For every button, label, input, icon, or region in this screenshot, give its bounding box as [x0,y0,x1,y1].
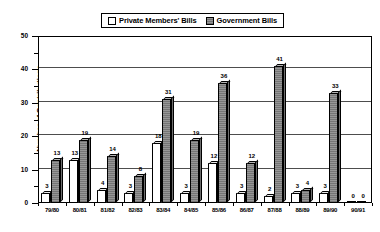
bar-private-members-bills: 2 [264,196,273,203]
bar-government-bills: 4 [301,190,310,203]
bar-face [107,156,116,203]
x-axis-tick [316,203,317,206]
y-axis-tick-label: 50 [2,33,28,40]
bar-face [41,193,50,203]
legend-entry-private-members-bills: Private Members' Bills [108,17,197,25]
y-axis-tick-label: 30 [2,100,28,107]
x-axis-tick [66,203,67,206]
bar-group: 34 [289,36,317,203]
bar-value-label: 19 [186,130,206,136]
bar-face [246,163,255,203]
bar-government-bills: 13 [51,160,60,203]
y-axis-tick-label: 10 [2,167,28,174]
x-axis-tick [261,203,262,206]
bar-face [236,193,245,203]
bar-government-bills: 8 [134,176,143,203]
bar-private-members-bills: 3 [236,193,245,203]
bar-groups: 313131941438183131912363122413433300 [38,36,372,203]
bar-group: 414 [94,36,122,203]
bar-government-bills: 12 [246,163,255,203]
x-axis-labels: 79/8080/8181/8282/8383/8484/8585/8686/87… [38,207,372,219]
bar-group: 313 [38,36,66,203]
bar-side-face [338,89,341,202]
legend-label-private-members-bills: Private Members' Bills [119,17,197,25]
bar-private-members-bills: 3 [124,193,133,203]
bar-group: 319 [177,36,205,203]
bar-government-bills: 14 [107,156,116,203]
bar-group: 1236 [205,36,233,203]
bar-side-face [310,186,313,202]
bar-private-members-bills: 3 [41,193,50,203]
bar-side-face [88,136,91,202]
bar-private-members-bills: 4 [97,190,106,203]
bar-side-face [255,159,258,202]
x-axis-tick [149,203,150,206]
bar-government-bills: 19 [190,140,199,203]
bar-private-members-bills: 3 [180,193,189,203]
bar-face [274,66,283,203]
bar-face [319,193,328,203]
bar-face [208,163,217,203]
bar-value-label: 41 [270,56,290,62]
bar-private-members-bills: 3 [291,193,300,203]
bar-value-label: 31 [158,89,178,95]
bar-private-members-bills: 12 [208,163,217,203]
legend-swatch-government-bills [206,17,214,25]
bar-face [79,140,88,203]
bar-group: 312 [233,36,261,203]
bar-face [97,190,106,203]
x-axis-tick [94,203,95,206]
bar-value-label: 14 [103,146,123,152]
bar-group: 1831 [149,36,177,203]
y-axis-tick-label: 0 [2,200,28,207]
x-axis-tick [344,203,345,206]
x-axis-tick [177,203,178,206]
legend-swatch-private-members-bills [108,17,116,25]
bar-group: 333 [316,36,344,203]
bar-group: 00 [344,36,372,203]
bar-government-bills: 31 [162,99,171,203]
bar-value-label: 19 [75,130,95,136]
bar-face [264,196,273,203]
bar-government-bills: 41 [274,66,283,203]
bar-private-members-bills: 18 [152,143,161,203]
bar-face [69,160,78,203]
bar-government-bills: 36 [218,83,227,203]
bar-side-face [116,153,119,203]
y-axis-tick-label: 20 [2,133,28,140]
bar-government-bills: 19 [79,140,88,203]
bar-group: 241 [261,36,289,203]
legend-label-government-bills: Government Bills [217,17,278,25]
x-axis-tick [233,203,234,206]
bar-face [152,143,161,203]
bar-face [329,93,338,203]
bar-side-face [171,96,174,203]
bar-value-label: 12 [242,153,262,159]
x-axis-tick [289,203,290,206]
legend-entry-government-bills: Government Bills [206,17,278,25]
bar-face [180,193,189,203]
bar-group: 38 [122,36,150,203]
bar-government-bills: 33 [329,93,338,203]
x-axis-tick [38,203,39,206]
bar-face [190,140,199,203]
bar-value-label: 8 [130,166,150,172]
bar-private-members-bills: 13 [69,160,78,203]
bar-side-face [199,136,202,202]
bar-side-face [227,79,230,202]
bar-face [51,160,60,203]
bar-value-label: 0 [353,193,373,199]
bar-face [218,83,227,203]
x-axis-tick-label: 90/91 [341,207,375,213]
bar-value-label: 33 [325,83,345,89]
bar-value-label: 36 [214,73,234,79]
bar-face [162,99,171,203]
bar-private-members-bills: 3 [319,193,328,203]
bar-group: 1319 [66,36,94,203]
x-axis-tick [205,203,206,206]
bar-side-face [143,173,146,203]
x-axis-tick [372,203,373,206]
bar-side-face [60,156,63,202]
chart-legend: Private Members' Bills Government Bills [101,13,284,28]
bar-chart: Private Members' Bills Government Bills … [0,0,380,232]
